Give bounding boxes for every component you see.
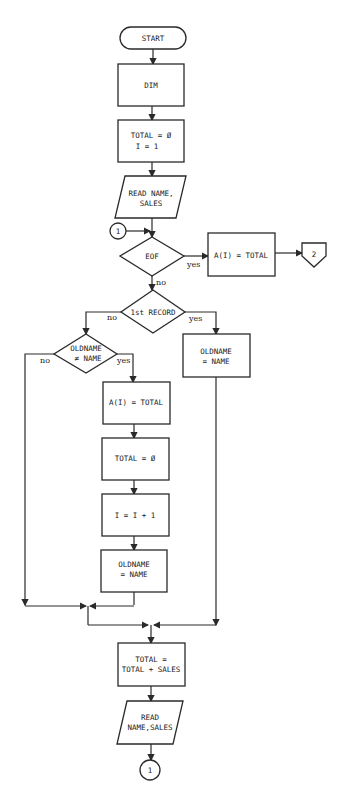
- svg-text:1: 1: [148, 766, 153, 775]
- svg-text:≠ NAME: ≠ NAME: [74, 354, 102, 363]
- svg-text:TOTAL = Ø: TOTAL = Ø: [131, 131, 172, 140]
- svg-text:1st RECORD: 1st RECORD: [130, 308, 176, 317]
- svg-text:= NAME: = NAME: [120, 570, 148, 579]
- eof-no-label: no: [156, 278, 166, 287]
- first-no-label: no: [107, 313, 117, 322]
- oldname-check-decision: OLDNAME ≠ NAME: [54, 334, 117, 373]
- svg-text:DIM: DIM: [144, 81, 158, 90]
- svg-text:OLDNAME: OLDNAME: [70, 344, 102, 353]
- svg-text:NAME,SALES: NAME,SALES: [127, 723, 173, 732]
- accumulate-process: TOTAL = TOTAL + SALES: [118, 643, 185, 686]
- eof-decision: EOF: [120, 237, 184, 276]
- svg-text:READ NAME,: READ NAME,: [128, 189, 173, 198]
- svg-text:A(I) = TOTAL: A(I) = TOTAL: [214, 251, 269, 260]
- svg-text:SALES: SALES: [140, 199, 163, 208]
- svg-text:2: 2: [312, 250, 317, 259]
- connector-1-in: 1: [110, 223, 126, 239]
- svg-text:OLDNAME: OLDNAME: [200, 347, 232, 356]
- init-process: TOTAL = Ø I = 1: [118, 120, 184, 162]
- first-record-decision: 1st RECORD: [121, 290, 185, 333]
- svg-text:= NAME: = NAME: [202, 357, 230, 366]
- reset-total-process: TOTAL = Ø: [102, 438, 169, 480]
- svg-text:OLDNAME: OLDNAME: [118, 560, 150, 569]
- eof-yes-label: yes: [186, 260, 200, 269]
- first-yes-label: yes: [188, 314, 202, 323]
- dim-process: DIM: [118, 64, 184, 106]
- svg-text:START: START: [142, 34, 165, 43]
- read-input-2: READ NAME,SALES: [117, 701, 183, 744]
- read-input-1: READ NAME, SALES: [115, 176, 186, 218]
- connector-1-out: 1: [140, 760, 160, 780]
- svg-text:A(I) = TOTAL: A(I) = TOTAL: [109, 398, 164, 407]
- check-no-label: no: [40, 356, 50, 365]
- flowchart: START DIM TOTAL = Ø I = 1 READ NAME, SAL…: [0, 0, 345, 808]
- svg-text:TOTAL = Ø: TOTAL = Ø: [115, 454, 156, 463]
- set-oldname-left-process: OLDNAME = NAME: [101, 550, 167, 592]
- offpage-connector-2: 2: [302, 243, 326, 267]
- check-yes-label: yes: [116, 356, 130, 365]
- final-assign-process: A(I) = TOTAL: [208, 233, 275, 276]
- svg-text:TOTAL + SALES: TOTAL + SALES: [122, 665, 181, 674]
- svg-text:EOF: EOF: [145, 252, 159, 261]
- assign-a-process: A(I) = TOTAL: [103, 382, 170, 424]
- svg-text:I = I + 1: I = I + 1: [115, 511, 156, 520]
- set-oldname-right-process: OLDNAME = NAME: [183, 334, 250, 377]
- svg-text:I = 1: I = 1: [136, 142, 159, 151]
- svg-text:READ: READ: [141, 713, 160, 722]
- svg-text:1: 1: [116, 227, 121, 236]
- svg-text:TOTAL =: TOTAL =: [135, 655, 167, 664]
- increment-process: I = I + 1: [102, 494, 169, 536]
- start-terminal: START: [120, 27, 186, 49]
